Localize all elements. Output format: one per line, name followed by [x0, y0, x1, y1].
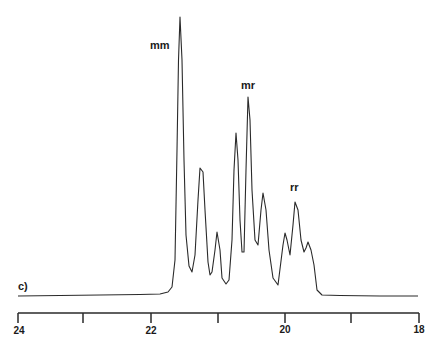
panel-label: c) — [18, 280, 28, 292]
spectrum-line — [18, 17, 418, 296]
x-tick-label: 22 — [145, 325, 157, 336]
annotation-rr: rr — [290, 181, 299, 193]
x-tick-label: 20 — [279, 324, 291, 335]
x-tick-label: 18 — [413, 324, 425, 335]
annotation-mm: mm — [150, 39, 170, 51]
x-tick-label: 24 — [13, 325, 25, 336]
annotation-mr: mr — [241, 79, 256, 91]
x-axis: 24 22 20 18 — [13, 313, 425, 336]
nmr-spectrum-chart: mm mr rr c) 24 22 20 18 — [0, 0, 437, 353]
